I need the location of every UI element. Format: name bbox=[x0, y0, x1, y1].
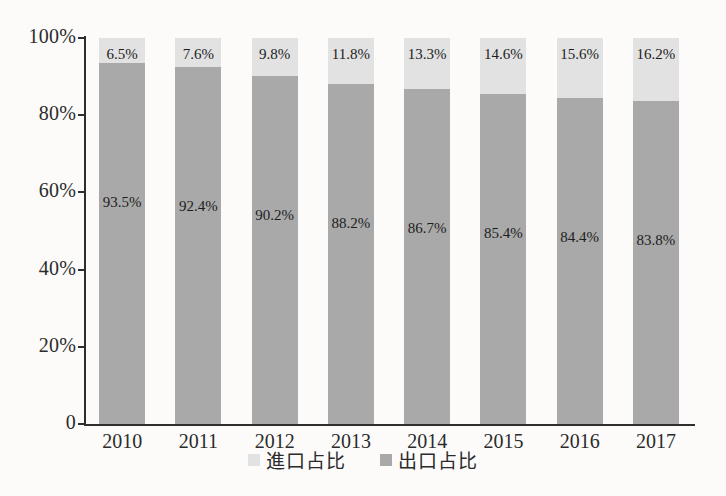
bar-group-2015[interactable]: 14.6%85.4% bbox=[480, 38, 526, 424]
bar-segment-export[interactable] bbox=[480, 94, 526, 424]
y-axis-tick-label: 40% bbox=[0, 257, 76, 280]
bar-label-export: 85.4% bbox=[484, 225, 523, 242]
legend-swatch-icon bbox=[380, 454, 392, 466]
legend-label: 出口占比 bbox=[398, 446, 478, 473]
legend-label: 進口占比 bbox=[266, 446, 346, 473]
bar-segment-export[interactable] bbox=[557, 98, 603, 424]
bar-group-2010[interactable]: 6.5%93.5% bbox=[99, 38, 145, 424]
bar-label-export: 86.7% bbox=[408, 220, 447, 237]
bar-segment-export[interactable] bbox=[175, 67, 221, 424]
bar-segment-export[interactable] bbox=[404, 89, 450, 424]
legend-item-import[interactable]: 進口占比 bbox=[248, 446, 346, 473]
bar-segment-export[interactable] bbox=[328, 84, 374, 424]
bar-segment-export[interactable] bbox=[252, 76, 298, 424]
bar-label-import: 13.3% bbox=[408, 46, 447, 63]
bar-label-export: 90.2% bbox=[255, 207, 294, 224]
bar-segment-export[interactable] bbox=[99, 63, 145, 424]
bar-label-import: 15.6% bbox=[560, 46, 599, 63]
bar-label-export: 84.4% bbox=[560, 229, 599, 246]
x-axis-line bbox=[84, 424, 695, 426]
legend-item-export[interactable]: 出口占比 bbox=[380, 446, 478, 473]
bar-label-import: 9.8% bbox=[259, 46, 290, 63]
bar-group-2012[interactable]: 9.8%90.2% bbox=[252, 38, 298, 424]
plot-area: 6.5%93.5%7.6%92.4%9.8%90.2%11.8%88.2%13.… bbox=[84, 38, 694, 424]
bar-label-export: 88.2% bbox=[332, 215, 371, 232]
y-axis-tick-label: 60% bbox=[0, 179, 76, 202]
chart-page: 020%40%60%80%100% 6.5%93.5%7.6%92.4%9.8%… bbox=[0, 0, 726, 496]
bar-label-export: 92.4% bbox=[179, 198, 218, 215]
y-axis-tick-label: 100% bbox=[0, 25, 76, 48]
bar-group-2011[interactable]: 7.6%92.4% bbox=[175, 38, 221, 424]
bar-group-2014[interactable]: 13.3%86.7% bbox=[404, 38, 450, 424]
bar-label-import: 6.5% bbox=[107, 46, 138, 63]
y-axis-tick-label: 0 bbox=[0, 411, 76, 434]
bar-group-2017[interactable]: 16.2%83.8% bbox=[633, 38, 679, 424]
bar-group-2016[interactable]: 15.6%84.4% bbox=[557, 38, 603, 424]
y-axis-tick-label: 80% bbox=[0, 102, 76, 125]
y-axis-tick-label: 20% bbox=[0, 334, 76, 357]
bar-segment-export[interactable] bbox=[633, 101, 679, 424]
bar-label-import: 16.2% bbox=[637, 46, 676, 63]
bar-label-export: 83.8% bbox=[637, 232, 676, 249]
bar-label-import: 7.6% bbox=[183, 46, 214, 63]
bar-label-import: 11.8% bbox=[332, 46, 370, 63]
bar-label-import: 14.6% bbox=[484, 46, 523, 63]
chart-legend: 進口占比出口占比 bbox=[0, 446, 726, 473]
bar-label-export: 93.5% bbox=[103, 194, 142, 211]
legend-swatch-icon bbox=[248, 454, 260, 466]
bar-group-2013[interactable]: 11.8%88.2% bbox=[328, 38, 374, 424]
